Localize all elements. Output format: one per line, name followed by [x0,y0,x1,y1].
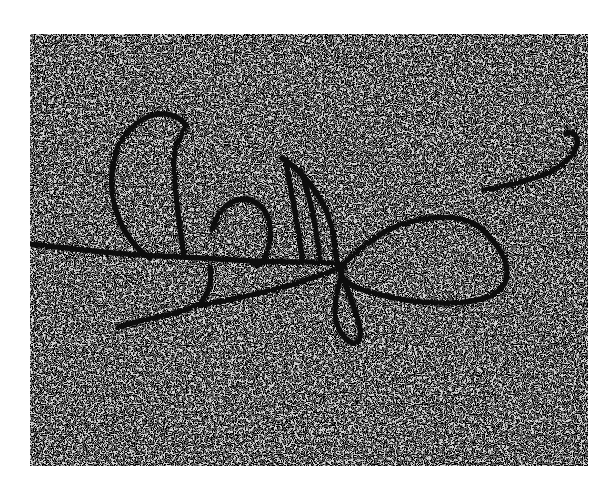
background-blotches [30,34,588,466]
electron-micrograph [30,34,588,466]
